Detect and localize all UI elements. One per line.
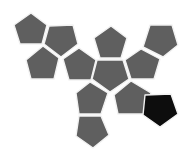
dodecahedron-net-diagram <box>0 0 195 164</box>
